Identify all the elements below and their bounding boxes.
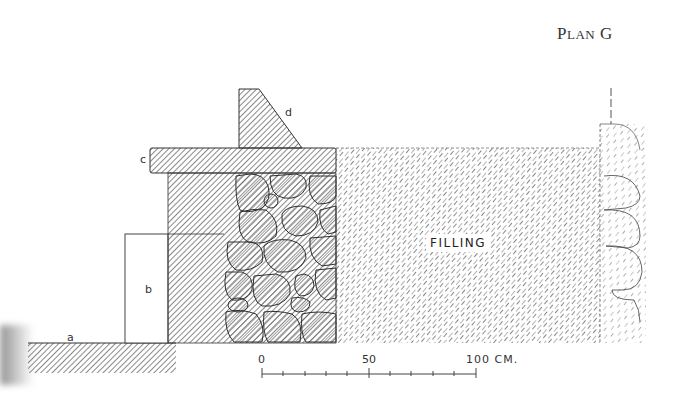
ground-a: [28, 343, 176, 373]
scale-label-100: 100 CM.: [466, 353, 518, 366]
label-c: c: [140, 154, 146, 165]
label-a: a: [67, 332, 74, 343]
title-letter: G: [595, 24, 613, 43]
drawing-canvas: [0, 0, 688, 407]
section-drawing: PLAN G a b c d FILLING 0 50 100 CM.: [0, 0, 688, 407]
scale-label-0: 0: [258, 353, 265, 366]
right-wall: [600, 88, 646, 343]
label-filling: FILLING: [426, 234, 490, 252]
title-small-caps: LAN: [567, 27, 595, 42]
title-initial: P: [557, 24, 567, 43]
element-d: [239, 89, 302, 148]
scale-label-50: 50: [362, 353, 376, 366]
label-b: b: [145, 284, 152, 295]
label-d: d: [285, 107, 292, 118]
slab-c: [150, 148, 336, 173]
plan-title: PLAN G: [557, 24, 613, 44]
scale-bar: [262, 368, 476, 378]
